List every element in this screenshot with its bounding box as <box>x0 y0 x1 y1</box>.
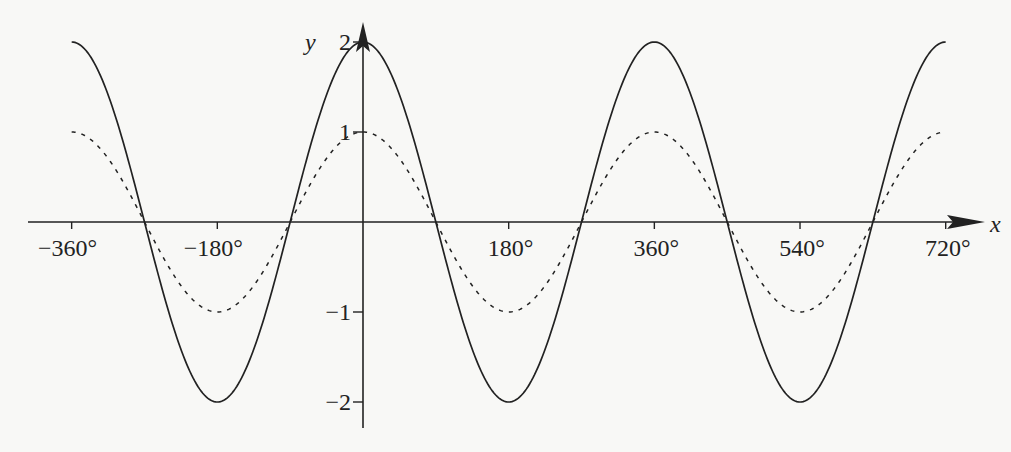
plot-area: −360°−180°180°360°540°720°21−1−2xy <box>0 0 1011 452</box>
x-tick-label: −360° <box>38 235 97 261</box>
x-tick-label: −180° <box>184 235 243 261</box>
y-axis-title: y <box>303 29 316 55</box>
x-tick-label: 180° <box>488 235 534 261</box>
y-tick-label: 2 <box>339 29 351 55</box>
y-tick-label: −2 <box>325 389 351 415</box>
x-axis-title: x <box>989 211 1001 237</box>
axes <box>28 22 985 428</box>
x-tick-label: 360° <box>634 235 680 261</box>
x-tick-label: 720° <box>925 235 971 261</box>
x-tick-label: 540° <box>779 235 825 261</box>
chart: −360°−180°180°360°540°720°21−1−2xy <box>0 0 1011 452</box>
y-tick-label: 1 <box>339 119 351 145</box>
y-tick-label: −1 <box>325 299 351 325</box>
